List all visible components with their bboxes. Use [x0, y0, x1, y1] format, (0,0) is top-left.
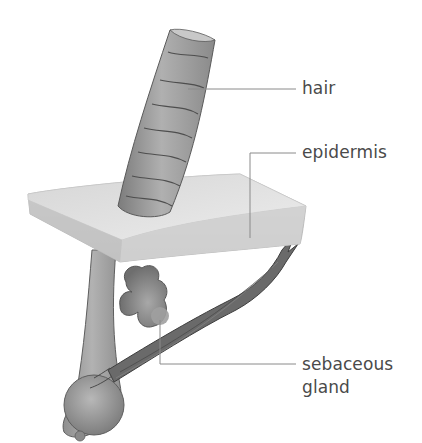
- hair-follicle-diagram: [0, 0, 422, 443]
- label-sebaceous-line1: sebaceous: [302, 354, 393, 375]
- label-sebaceous-line2: gland: [302, 377, 350, 398]
- hair-bulb: [64, 375, 124, 435]
- hair-root: [63, 250, 124, 441]
- sebaceous-gland: [120, 266, 169, 327]
- label-hair: hair: [302, 78, 335, 99]
- label-epidermis: epidermis: [302, 142, 387, 163]
